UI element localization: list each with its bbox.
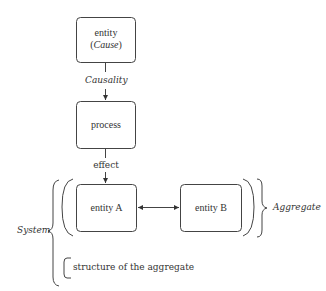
cause-label-line1: entity [76, 27, 136, 39]
structure-bracket [64, 258, 71, 278]
structure-label: structure of the aggregate [73, 262, 194, 273]
process-label: process [76, 119, 136, 131]
diagram-canvas: entity (Cause) process entity A entity B… [0, 0, 326, 291]
aggregate-left-paren [62, 179, 73, 236]
aggregate-right-paren [243, 179, 254, 236]
entity-b-label: entity B [180, 202, 242, 214]
causality-label: Causality [85, 75, 127, 86]
effect-label: effect [85, 160, 127, 171]
diagram-shapes [0, 0, 326, 291]
cause-label-line2: (Cause) [76, 39, 136, 51]
system-label: System [17, 225, 50, 236]
cause-paren-close: ) [119, 39, 122, 50]
cause-label-italic: Cause [94, 39, 119, 50]
entity-a-label: entity A [76, 202, 137, 214]
aggregate-brace [257, 179, 267, 237]
aggregate-label: Aggregate [273, 202, 321, 213]
cause-node: entity (Cause) [76, 27, 136, 51]
